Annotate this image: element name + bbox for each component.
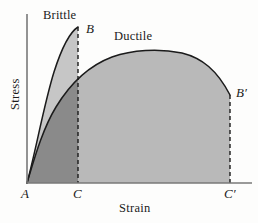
stress-strain-figure: Brittle Ductile Stress Strain A B C B′ C… [0,0,258,223]
x-axis-label: Strain [119,202,151,215]
point-label-c-prime: C′ [224,187,236,200]
point-label-a: A [21,187,29,200]
point-label-c: C [73,187,82,200]
point-label-b: B [86,22,94,35]
y-axis-label: Stress [9,70,22,118]
ductile-curve-label: Ductile [114,30,152,43]
point-label-b-prime: B′ [236,86,247,99]
brittle-curve-label: Brittle [43,9,76,22]
